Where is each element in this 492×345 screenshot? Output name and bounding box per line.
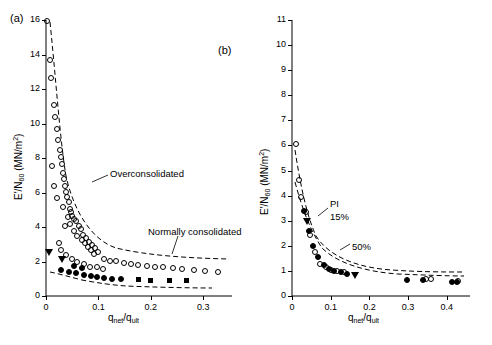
xticklabel: 0.1	[319, 302, 343, 312]
yticklabel: 7	[264, 114, 286, 124]
yticklabel: 14	[18, 49, 40, 59]
data-point	[303, 218, 311, 225]
data-point	[351, 272, 359, 279]
data-point	[79, 265, 85, 271]
data-point	[152, 264, 158, 270]
xticklabel: 0.3	[191, 302, 215, 312]
xticklabel: 0.1	[86, 302, 110, 312]
yticklabel: 11	[264, 14, 286, 24]
panel-b-label: (b)	[218, 44, 231, 56]
ytick	[288, 70, 292, 71]
yticklabel: 12	[18, 83, 40, 93]
yticklabel: 0	[264, 290, 286, 300]
data-point	[128, 261, 134, 267]
data-point	[184, 278, 189, 283]
panel-a-xaxis-title: qnet/qult	[108, 312, 139, 324]
xtick	[331, 296, 332, 300]
figure-root: (a) (b) qnet/qult E'/N60 (MN/m2) qnet/qu…	[0, 0, 492, 345]
data-point	[62, 223, 68, 229]
data-point	[338, 269, 344, 275]
yticklabel: 8	[18, 152, 40, 162]
ytick	[42, 193, 46, 194]
yticklabel: 2	[18, 256, 40, 266]
ytick	[42, 89, 46, 90]
data-point	[87, 264, 93, 270]
ytick	[288, 296, 292, 297]
ytick	[288, 45, 292, 46]
annotation-overconsolidated: Overconsolidated	[110, 168, 184, 179]
data-point	[48, 75, 54, 81]
xtick	[292, 296, 293, 300]
yticklabel: 10	[264, 39, 286, 49]
yticklabel: 10	[18, 118, 40, 128]
data-point	[91, 251, 97, 257]
data-point	[57, 147, 63, 153]
ytick	[288, 221, 292, 222]
data-point	[54, 195, 60, 201]
data-point	[167, 278, 172, 283]
data-point	[44, 18, 50, 24]
ytick	[288, 145, 292, 146]
ytick	[288, 95, 292, 96]
xticklabel: 0.4	[435, 302, 459, 312]
panel-b-xaxis-title: qnet/qult	[348, 312, 379, 324]
annotation-normally-consolidated: Normally consolidated	[148, 226, 241, 237]
ytick	[288, 271, 292, 272]
yticklabel: 4	[264, 190, 286, 200]
ytick	[42, 227, 46, 228]
yticklabel: 9	[264, 64, 286, 74]
xtick	[203, 296, 204, 300]
ytick	[288, 171, 292, 172]
data-point	[45, 249, 53, 256]
yticklabel: 5	[264, 165, 286, 175]
data-point	[296, 177, 302, 183]
data-point	[56, 240, 62, 246]
xticklabel: 0.2	[139, 302, 163, 312]
ytick	[42, 55, 46, 56]
data-point	[58, 256, 66, 263]
yticklabel: 8	[264, 89, 286, 99]
panel-b-yaxis-title: E'/N60 (MN/m2)	[258, 149, 271, 215]
data-point	[101, 275, 107, 281]
data-point	[109, 276, 115, 282]
data-point	[215, 269, 221, 275]
data-point	[107, 258, 113, 264]
data-point	[148, 278, 153, 283]
yticklabel: 1	[264, 265, 286, 275]
xticklabel: 0.3	[396, 302, 420, 312]
data-point	[71, 263, 77, 269]
xtick	[447, 296, 448, 300]
data-point	[191, 267, 197, 273]
ytick	[288, 196, 292, 197]
annotation-pi: PI	[330, 198, 339, 209]
ytick	[42, 296, 46, 297]
data-point	[55, 137, 61, 143]
xtick	[46, 296, 47, 300]
xtick	[151, 296, 152, 300]
xtick	[369, 296, 370, 300]
annotation-pi-50: 50%	[352, 241, 371, 252]
data-point	[66, 269, 72, 275]
yticklabel: 4	[18, 221, 40, 231]
xticklabel: 0	[280, 302, 304, 312]
yticklabel: 6	[18, 187, 40, 197]
yticklabel: 3	[264, 215, 286, 225]
data-point	[100, 266, 106, 272]
data-point	[344, 271, 350, 277]
data-point	[81, 272, 87, 278]
data-point	[136, 277, 141, 282]
yticklabel: 2	[264, 240, 286, 250]
data-point	[60, 204, 66, 210]
yticklabel: 6	[264, 139, 286, 149]
xtick	[98, 296, 99, 300]
data-point	[121, 260, 127, 266]
xtick	[408, 296, 409, 300]
data-point	[54, 126, 60, 132]
data-point	[306, 228, 312, 234]
data-point	[101, 256, 107, 262]
data-point	[49, 163, 55, 169]
data-point	[301, 208, 307, 214]
xticklabel: 0	[34, 302, 58, 312]
yticklabel: 0	[18, 290, 40, 300]
annotation-pi-15: 15%	[330, 211, 349, 222]
